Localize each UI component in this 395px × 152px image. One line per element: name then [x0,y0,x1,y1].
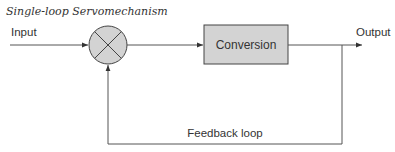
feedback-label: Feedback loop [187,127,262,139]
output-label: Output [356,26,391,38]
summing-junction [89,26,127,64]
diagram-title: Single-loop Servomechanism [6,5,168,18]
servo-diagram: Single-loop Servomechanism Input Convers… [0,0,395,152]
input-label: Input [11,26,37,38]
conversion-label: Conversion [216,38,277,52]
conversion-block: Conversion [204,25,288,64]
